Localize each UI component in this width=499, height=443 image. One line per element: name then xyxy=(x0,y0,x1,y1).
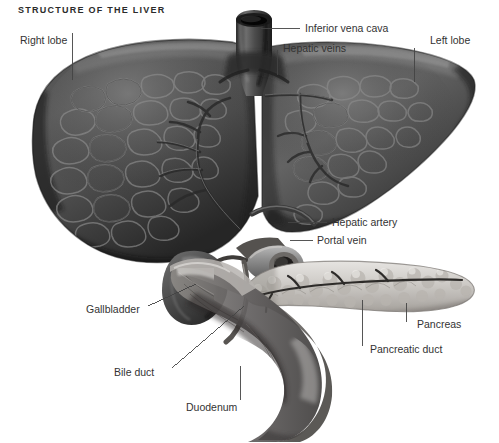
label-gallbladder: Gallbladder xyxy=(86,303,140,315)
label-portal-vein: Portal vein xyxy=(317,234,367,246)
figure-title: STRUCTURE OF THE LIVER xyxy=(18,5,166,15)
label-pancreas: Pancreas xyxy=(417,318,461,330)
label-hepatic-veins: Hepatic veins xyxy=(283,42,346,54)
label-bile-duct: Bile duct xyxy=(114,366,154,378)
label-left-lobe: Left lobe xyxy=(430,34,470,46)
label-hepatic-artery: Hepatic artery xyxy=(332,216,397,228)
label-pancreatic-duct: Pancreatic duct xyxy=(370,343,442,355)
label-right-lobe: Right lobe xyxy=(20,34,67,46)
label-duodenum: Duodenum xyxy=(186,401,237,413)
label-inferior-vena-cava: Inferior vena cava xyxy=(305,22,388,34)
liver-anatomy-illustration xyxy=(0,0,499,443)
illustration-stage: STRUCTURE OF THE LIVER Right lobe Inferi… xyxy=(0,0,499,443)
